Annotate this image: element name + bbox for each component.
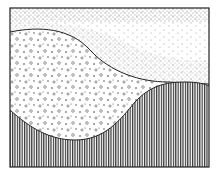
top-layer-dense-band: [10, 8, 209, 22]
cross-section-illustration: [0, 0, 219, 175]
